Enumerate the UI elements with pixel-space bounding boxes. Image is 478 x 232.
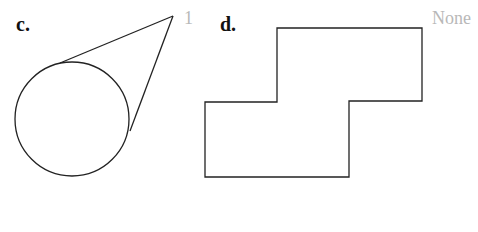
figure-d-label: d. [220,14,236,34]
circle [15,62,129,176]
figure-c [15,16,173,176]
figure-d [205,28,422,177]
figure-d-answer: None [432,9,471,27]
diagram-canvas [0,0,478,232]
s-shaped-polygon [205,28,422,177]
tangent-line-lower [130,16,173,131]
tangent-line-upper [60,16,173,63]
figure-c-answer: 1 [184,9,193,27]
figure-c-label: c. [16,14,30,34]
